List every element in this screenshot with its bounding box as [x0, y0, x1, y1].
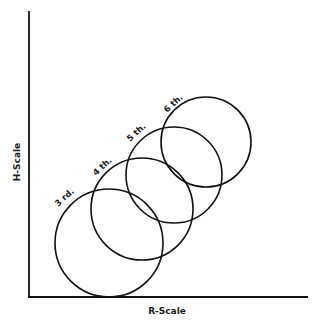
x-axis-label: R-Scale: [148, 306, 186, 316]
y-axis-label: H-Scale: [12, 143, 22, 181]
circle-3rd: [55, 189, 163, 297]
circle-5th: [126, 127, 222, 223]
circle-4th: [91, 158, 193, 260]
label-3rd: 3 rd.: [53, 186, 76, 208]
label-5th: 5 th.: [125, 121, 148, 143]
label-4th: 4 th.: [91, 155, 114, 177]
circle-6th: [161, 97, 251, 187]
diagram-canvas: 3 rd. 4 th. 5 th. 6 th. H-Scale R-Scale: [0, 0, 321, 321]
